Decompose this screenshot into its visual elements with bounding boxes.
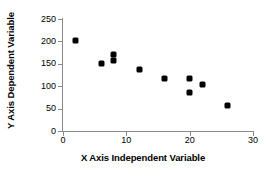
data-point [200,82,205,87]
data-point [187,76,192,81]
y-axis-tick [58,41,62,42]
x-axis-tick-label: 30 [238,136,266,145]
y-axis-tick [58,64,62,65]
y-axis-tick-label: 250 [32,15,56,24]
y-axis-tick [58,109,62,110]
y-axis-tick [58,131,62,132]
y-axis-tick [58,19,62,20]
x-axis-tick-label: 20 [175,136,205,145]
x-axis-tick-label: 0 [48,136,78,145]
scatter-chart: Y Axis Dependent Variable 05010015020025… [0,0,266,176]
data-point [225,103,230,108]
y-axis-tick-label: 50 [32,104,56,113]
x-axis-line [62,131,254,132]
data-point [162,76,167,81]
x-axis-title: X Axis Independent Variable [20,152,266,163]
y-axis-tick-label: 150 [32,59,56,68]
y-axis-title-text: Y Axis Dependent Variable [5,12,16,129]
data-point [137,67,142,72]
data-point [187,90,192,95]
y-axis-tick [58,86,62,87]
y-axis-tick-labels: 050100150200250 [30,0,56,150]
data-point [99,61,104,66]
data-point [111,52,116,57]
y-axis-tick-label: 200 [32,37,56,46]
x-axis-tick-label: 10 [111,136,141,145]
y-axis-tick-label: 0 [32,127,56,136]
data-point [73,38,78,43]
plot-area [63,19,253,131]
data-point [111,58,116,63]
y-axis-tick-label: 100 [32,82,56,91]
y-axis-title: Y Axis Dependent Variable [0,0,20,140]
